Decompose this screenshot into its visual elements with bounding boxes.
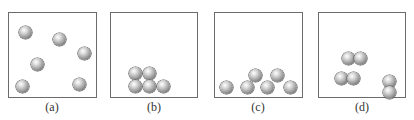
particle — [383, 86, 396, 99]
particle — [129, 67, 142, 80]
particle — [73, 78, 86, 91]
panel-c-label: (c) — [238, 100, 278, 115]
panel-b — [110, 12, 198, 98]
particle — [261, 81, 274, 94]
particle — [354, 52, 367, 65]
particle — [347, 72, 360, 85]
panel-d-label: (d) — [342, 100, 382, 115]
particle — [78, 47, 91, 60]
panel-a — [8, 12, 97, 98]
particle — [157, 80, 170, 93]
particle — [53, 33, 66, 46]
particle — [19, 26, 32, 39]
panel-c — [214, 12, 303, 98]
particle — [16, 80, 29, 93]
panel-a-label: (a) — [32, 100, 72, 115]
particle — [31, 58, 44, 71]
particle — [241, 81, 254, 94]
particle — [249, 69, 262, 82]
particle — [143, 80, 156, 93]
particle — [284, 81, 297, 94]
panel-b-label: (b) — [134, 100, 174, 115]
panel-d — [318, 12, 406, 98]
particle — [143, 67, 156, 80]
particle — [271, 69, 284, 82]
particle — [220, 81, 233, 94]
particle — [129, 80, 142, 93]
